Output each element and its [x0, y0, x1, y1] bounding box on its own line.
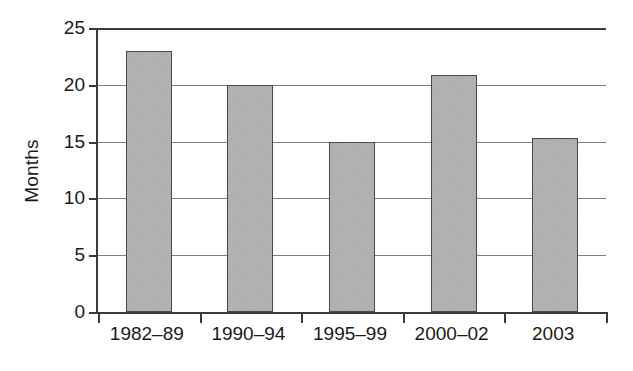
y-axis-label: 10: [64, 187, 85, 209]
x-axis-label: 1990–94: [211, 323, 285, 345]
gridline-0: [98, 312, 606, 314]
x-axis-tick: [504, 312, 506, 323]
bar: [532, 138, 578, 312]
gridline-25: [98, 28, 606, 30]
y-axis-title: Months: [21, 111, 43, 231]
x-axis-labels: 1982–891990–941995–992000–022003: [96, 323, 604, 357]
bar: [227, 85, 273, 312]
y-axis-label: 5: [74, 244, 85, 266]
x-axis-tick: [301, 312, 303, 323]
bar: [126, 51, 172, 312]
bar: [329, 142, 375, 312]
x-axis-tick: [98, 312, 100, 323]
x-axis-label: 2003: [532, 323, 574, 345]
y-axis-tick-15: [89, 142, 98, 144]
x-axis-tick: [200, 312, 202, 323]
y-axis-label: 25: [64, 17, 85, 39]
y-axis-tick-25: [89, 28, 98, 30]
y-axis-tick-5: [89, 255, 98, 257]
x-axis-label: 1995–99: [313, 323, 387, 345]
y-axis-label: 20: [64, 74, 85, 96]
y-axis-tick-0: [89, 312, 98, 314]
y-axis-label: 0: [74, 301, 85, 323]
gridline-20: [98, 85, 606, 86]
x-axis-tick: [606, 312, 608, 323]
x-axis-label: 2000–02: [415, 323, 489, 345]
y-axis-tick-20: [89, 85, 98, 87]
bar: [431, 75, 477, 312]
y-axis-tick-10: [89, 198, 98, 200]
y-axis-label: 15: [64, 131, 85, 153]
plot-area: 0510152025: [96, 28, 604, 312]
x-axis-label: 1982–89: [110, 323, 184, 345]
bar-chart: Months 0510152025 1982–891990–941995–992…: [0, 0, 633, 371]
x-axis-tick: [403, 312, 405, 323]
